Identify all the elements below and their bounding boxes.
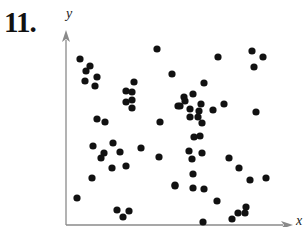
data-point — [113, 206, 120, 213]
data-point — [128, 96, 135, 103]
data-point — [194, 113, 201, 120]
data-point — [189, 90, 196, 97]
data-point — [137, 144, 144, 151]
data-point — [153, 45, 160, 52]
data-point — [235, 164, 242, 171]
data-point — [73, 194, 80, 201]
data-point — [186, 105, 193, 112]
scatter-plot — [0, 0, 306, 227]
data-point — [200, 79, 207, 86]
data-point — [122, 162, 129, 169]
data-point — [186, 113, 193, 120]
data-point — [108, 164, 115, 171]
data-point — [171, 182, 178, 189]
data-point — [220, 100, 227, 107]
data-points — [73, 45, 269, 225]
data-point — [200, 185, 207, 192]
data-point — [259, 53, 266, 60]
data-point — [119, 213, 126, 220]
data-point — [241, 209, 248, 216]
data-point — [109, 139, 116, 146]
data-point — [197, 100, 204, 107]
data-point — [209, 106, 216, 113]
data-point — [242, 203, 249, 210]
data-point — [76, 55, 83, 62]
data-point — [250, 63, 257, 70]
data-point — [189, 170, 196, 177]
data-point — [125, 207, 132, 214]
data-point — [88, 174, 95, 181]
data-point — [89, 142, 96, 149]
data-point — [128, 104, 135, 111]
data-point — [122, 87, 129, 94]
data-point — [228, 215, 235, 222]
data-point — [93, 73, 100, 80]
data-point — [188, 155, 195, 162]
data-point — [91, 82, 98, 89]
data-point — [128, 88, 135, 95]
data-point — [101, 118, 108, 125]
data-point — [116, 148, 123, 155]
data-point — [196, 132, 203, 139]
data-point — [246, 176, 253, 183]
data-point — [81, 77, 88, 84]
data-point — [185, 147, 192, 154]
data-point — [93, 115, 100, 122]
data-point — [156, 118, 163, 125]
data-point — [168, 70, 175, 77]
data-point — [198, 119, 205, 126]
data-point — [198, 149, 205, 156]
data-point — [97, 154, 104, 161]
axes — [62, 30, 293, 227]
data-point — [252, 108, 259, 115]
data-point — [213, 197, 220, 204]
data-point — [225, 154, 232, 161]
data-point — [190, 133, 197, 140]
data-point — [234, 209, 241, 216]
data-point — [130, 78, 137, 85]
data-point — [82, 67, 89, 74]
data-point — [262, 174, 269, 181]
x-axis-arrow-icon — [281, 221, 293, 227]
data-point — [248, 47, 255, 54]
data-point — [176, 102, 183, 109]
data-point — [189, 184, 196, 191]
data-point — [214, 53, 221, 60]
data-point — [155, 153, 162, 160]
data-point — [199, 218, 206, 225]
data-point — [195, 107, 202, 114]
